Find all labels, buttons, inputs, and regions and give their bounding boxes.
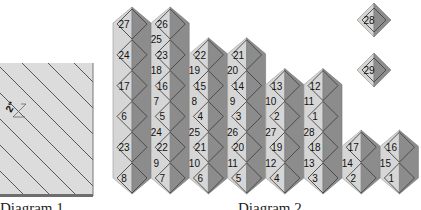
square-number: 26 bbox=[227, 127, 239, 138]
square-number: 16 bbox=[386, 142, 398, 153]
square-number: 3 bbox=[312, 173, 318, 184]
strip-column-2: 262523181675242297 bbox=[151, 7, 190, 194]
square-number: 8 bbox=[192, 96, 198, 107]
square-number: 8 bbox=[121, 173, 127, 184]
square-number: 15 bbox=[195, 81, 207, 92]
square-number: 18 bbox=[151, 65, 163, 76]
square-number: 21 bbox=[195, 142, 207, 153]
square-number: 6 bbox=[198, 173, 204, 184]
square-dark-half bbox=[374, 53, 391, 87]
strip-column-8: 16151 bbox=[380, 130, 419, 194]
square-number: 10 bbox=[189, 158, 201, 169]
square-number: 22 bbox=[157, 142, 169, 153]
strip-column-4: 212014932620115 bbox=[227, 38, 266, 194]
square-number: 2 bbox=[350, 173, 356, 184]
diagram-canvas: 2" 2724176238262523181675242297221915842… bbox=[0, 0, 421, 210]
square-number: 25 bbox=[189, 127, 201, 138]
square-number: 16 bbox=[157, 81, 169, 92]
square-number: 9 bbox=[153, 158, 159, 169]
square-number: 12 bbox=[265, 158, 277, 169]
square-number: 2 bbox=[274, 111, 280, 122]
strip-dark-half bbox=[399, 130, 418, 194]
square-number: 7 bbox=[159, 173, 165, 184]
square-number: 17 bbox=[118, 81, 130, 92]
square-number: 9 bbox=[230, 96, 236, 107]
square-number: 10 bbox=[265, 96, 277, 107]
strip-column-1: 2724176238 bbox=[113, 7, 151, 194]
square-number: 14 bbox=[233, 81, 245, 92]
square-number: 21 bbox=[233, 50, 245, 61]
strip-column-5: 131022719124 bbox=[265, 69, 304, 194]
square-number: 29 bbox=[363, 65, 375, 76]
square-number: 15 bbox=[380, 158, 392, 169]
square-number: 25 bbox=[151, 34, 163, 45]
square-number: 1 bbox=[389, 173, 395, 184]
strip-dark-half bbox=[323, 69, 342, 194]
square-number: 13 bbox=[303, 158, 315, 169]
panel-bottom-edge bbox=[0, 194, 93, 197]
square-number: 24 bbox=[151, 127, 163, 138]
square-number: 19 bbox=[271, 142, 283, 153]
square-number: 6 bbox=[121, 111, 127, 122]
square-number: 20 bbox=[233, 142, 245, 153]
square-number: 4 bbox=[198, 111, 204, 122]
square-number: 7 bbox=[153, 96, 159, 107]
square-number: 23 bbox=[157, 50, 169, 61]
square-number: 27 bbox=[118, 19, 130, 30]
loose-squares: 2829 bbox=[357, 3, 391, 87]
strip-dark-half bbox=[361, 130, 380, 194]
square-number: 24 bbox=[118, 50, 130, 61]
square-number: 5 bbox=[236, 173, 242, 184]
square-number: 19 bbox=[189, 65, 201, 76]
square-number: 23 bbox=[118, 142, 130, 153]
square-number: 4 bbox=[274, 173, 280, 184]
square-number: 22 bbox=[195, 50, 207, 61]
square-number: 5 bbox=[159, 111, 165, 122]
diagram-2-caption: Diagram 2 bbox=[238, 200, 302, 210]
fabric-square bbox=[0, 63, 93, 196]
strip-column-7: 17142 bbox=[342, 130, 381, 194]
square-number: 26 bbox=[157, 19, 169, 30]
square-number: 14 bbox=[342, 158, 354, 169]
diagram-1-caption: Diagram 1 bbox=[0, 200, 64, 210]
strip-dark-half bbox=[285, 69, 304, 194]
strip-column-6: 121112818133 bbox=[303, 69, 342, 194]
loose-square-28: 28 bbox=[357, 3, 391, 37]
square-number: 28 bbox=[303, 127, 315, 138]
strip-column-3: 221915842521106 bbox=[189, 38, 228, 194]
square-number: 3 bbox=[236, 111, 242, 122]
square-number: 20 bbox=[227, 65, 239, 76]
square-number: 28 bbox=[363, 15, 375, 26]
square-number: 11 bbox=[304, 96, 315, 107]
strip-dark-half bbox=[208, 38, 227, 194]
square-number: 27 bbox=[265, 127, 277, 138]
strip-dark-half bbox=[247, 38, 266, 194]
square-number: 13 bbox=[271, 81, 283, 92]
square-number: 11 bbox=[227, 158, 238, 169]
square-number: 18 bbox=[309, 142, 321, 153]
square-number: 1 bbox=[312, 111, 318, 122]
square-dark-half bbox=[374, 3, 391, 37]
quilt-diagrams: 2" 2724176238262523181675242297221915842… bbox=[0, 0, 421, 210]
loose-square-29: 29 bbox=[357, 53, 391, 87]
square-number: 12 bbox=[309, 81, 321, 92]
square-number: 17 bbox=[348, 142, 360, 153]
